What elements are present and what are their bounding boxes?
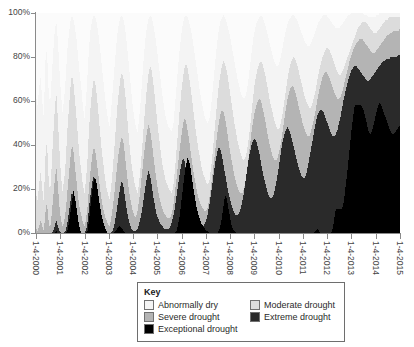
stacked-area-series [36,13,400,233]
x-tick [157,234,158,239]
legend-item[interactable]: Exceptional drought [144,324,250,334]
y-tick-label: 40% [0,140,30,149]
drought-area-chart: 0%20%40%60%80%100% 1-4-20001-4-20011-4-2… [0,0,414,347]
x-tick [109,234,110,239]
y-tick [31,57,36,58]
legend-row: Abnormally dryModerate drought [144,300,338,310]
x-tick [327,234,328,239]
x-tick [182,234,183,239]
x-tick-label: 1-4-2007 [201,241,210,275]
x-tick-label: 1-4-2008 [225,241,234,275]
y-tick-label: 80% [0,52,30,61]
legend-item[interactable]: Moderate drought [250,300,335,310]
y-tick [31,145,36,146]
x-tick-label: 1-4-2001 [55,241,64,275]
legend-label: Extreme drought [264,312,331,322]
y-tick-label: 0% [0,228,30,237]
y-tick-label: 60% [0,96,30,105]
y-tick-label: 20% [0,184,30,193]
x-tick [303,234,304,239]
y-tick [31,189,36,190]
legend-row: Severe droughtExtreme drought [144,312,338,322]
x-tick-label: 1-4-2011 [298,241,307,274]
x-tick-label: 1-4-2010 [274,241,283,275]
legend-label: Abnormally dry [158,300,218,310]
x-tick-label: 1-4-2012 [322,241,331,275]
x-tick [230,234,231,239]
x-tick-label: 1-4-2006 [177,241,186,275]
legend-swatch-icon [144,312,154,322]
y-tick [31,101,36,102]
legend-swatch-icon [250,300,260,310]
y-tick [31,13,36,14]
y-tick-label: 100% [0,8,30,17]
legend-label: Moderate drought [264,300,335,310]
x-tick [351,234,352,239]
x-tick-label: 1-4-2009 [249,241,258,275]
x-tick-label: 1-4-2005 [152,241,161,275]
x-tick [36,234,37,239]
legend-label: Severe drought [158,312,220,322]
x-tick [254,234,255,239]
x-tick [85,234,86,239]
x-tick-label: 1-4-2002 [80,241,89,275]
legend-entries: Abnormally dryModerate droughtSevere dro… [144,300,338,334]
x-tick [133,234,134,239]
x-axis-line [35,233,401,234]
x-tick-label: 1-4-2014 [371,241,380,275]
legend-item[interactable]: Extreme drought [250,312,331,322]
x-tick [376,234,377,239]
x-tick [400,234,401,239]
x-tick [60,234,61,239]
legend-swatch-icon [144,300,154,310]
legend-title: Key [144,287,338,297]
legend-item[interactable]: Abnormally dry [144,300,250,310]
y-axis-line [35,12,36,234]
x-tick [279,234,280,239]
x-tick-label: 1-4-2003 [104,241,113,275]
x-tick [206,234,207,239]
x-tick-label: 1-4-2015 [395,241,404,275]
legend-swatch-icon [250,312,260,322]
legend-item[interactable]: Severe drought [144,312,250,322]
plot-canvas [36,13,400,233]
legend-swatch-icon [144,324,154,334]
legend-label: Exceptional drought [158,324,238,334]
x-tick-label: 1-4-2004 [128,241,137,275]
legend-row: Exceptional drought [144,324,338,334]
x-tick-label: 1-4-2000 [31,241,40,275]
chart-legend: Key Abnormally dryModerate droughtSevere… [137,282,345,342]
chart-plot-region: 0%20%40%60%80%100% 1-4-20001-4-20011-4-2… [0,0,414,250]
x-tick-label: 1-4-2013 [346,241,355,275]
